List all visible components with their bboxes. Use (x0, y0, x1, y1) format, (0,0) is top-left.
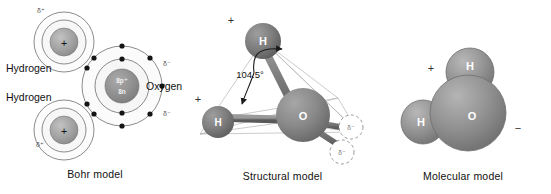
oxygen-symbol: O (468, 110, 477, 122)
hydrogen-top-charge-label: δ⁺ (37, 7, 45, 14)
structural-model-diagram: δ⁻ δ⁻ H + H + O 104.5° (190, 0, 375, 170)
structural-model-caption: Structural model (190, 170, 375, 182)
oxygen-charge-label-upper: δ⁻ (163, 60, 171, 67)
lone-pair-charge-lower: δ⁻ (338, 149, 346, 156)
hydrogen-symbol-left: H (214, 117, 221, 128)
hydrogen-left-partial-charge: + (195, 93, 201, 105)
oxygen-proton-count: 8p⁺ (116, 77, 128, 85)
atom-oxygen: O (276, 88, 330, 142)
hydrogen-top-label: Hydrogen (6, 62, 52, 74)
oxygen-nucleus (105, 69, 139, 103)
bohr-hydrogen-bottom: + δ⁺ (34, 100, 94, 160)
oxygen-charge-label-lower: δ⁻ (163, 110, 171, 117)
bond-angle-value: 104.5° (236, 69, 264, 80)
molecular-negative-charge: − (515, 122, 521, 134)
oxygen-label: Oxygen (146, 80, 182, 92)
hydrogen-bottom-charge-label: δ⁺ (36, 141, 44, 148)
atom-hydrogen-left: H (202, 106, 234, 138)
structural-model-panel: δ⁻ δ⁻ H + H + O 104.5° Structural model (190, 0, 375, 194)
bohr-model-panel: + δ⁺ Hydrogen + δ⁺ Hydrogen 8p⁺ 8n (0, 0, 190, 194)
molecular-model-caption: Molecular model (375, 170, 551, 182)
hydrogen-top-partial-charge: + (228, 14, 234, 26)
molecular-positive-charge: + (428, 62, 434, 74)
atom-hydrogen-top: H (245, 23, 281, 59)
hydrogen-symbol-top: H (259, 35, 267, 47)
molecular-model-panel: H H O + − Molecular model (375, 0, 551, 194)
molecular-model-diagram: H H O + − (375, 0, 551, 170)
hydrogen-nucleus-symbol: + (61, 125, 67, 137)
space-filling-model: H H O (401, 48, 506, 151)
bohr-model-caption: Bohr model (0, 168, 190, 180)
hydrogen-bottom-label: Hydrogen (6, 91, 52, 103)
hydrogen-symbol-top: H (466, 60, 474, 72)
bohr-model-diagram: + δ⁺ Hydrogen + δ⁺ Hydrogen 8p⁺ 8n (0, 0, 190, 168)
hydrogen-symbol-left: H (417, 116, 425, 128)
lone-pair-charge-upper: δ⁻ (347, 124, 355, 131)
hydrogen-nucleus-symbol: + (61, 37, 67, 49)
oxygen-symbol: O (299, 110, 308, 122)
oxygen-neutron-count: 8n (118, 88, 126, 95)
bohr-oxygen: 8p⁺ 8n Oxygen δ⁻ δ⁻ (82, 43, 182, 128)
